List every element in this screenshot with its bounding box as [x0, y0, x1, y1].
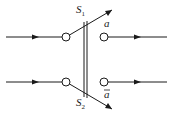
label-s1: S1 — [76, 3, 86, 18]
output-line-bottom — [108, 80, 167, 85]
input-line-top — [6, 35, 62, 40]
output-line-top — [108, 35, 167, 40]
input-line-bottom — [6, 80, 62, 85]
output-terminal-bottom — [100, 78, 108, 86]
output-terminal-top — [100, 33, 108, 41]
label-s2: S2 — [76, 96, 86, 111]
label-output-a: a — [104, 17, 110, 29]
switch-diagram: S1 S2 a a — [0, 0, 172, 120]
input-terminal-bottom — [62, 78, 70, 86]
mechanical-linkage — [84, 21, 87, 98]
input-terminal-top — [62, 33, 70, 41]
